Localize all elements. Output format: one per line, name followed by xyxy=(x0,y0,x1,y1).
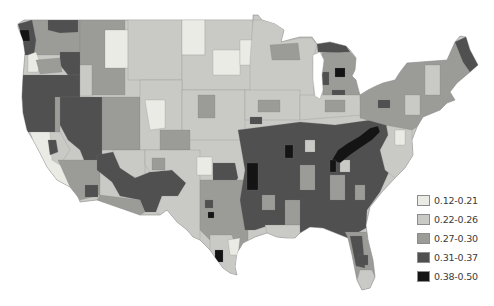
legend-item-class-3: 0.31-0.37 xyxy=(417,248,487,267)
map-region xyxy=(208,212,214,218)
map-region xyxy=(335,68,345,77)
map-region xyxy=(128,20,182,80)
map-region xyxy=(265,225,300,238)
map-region xyxy=(357,270,375,290)
map-region xyxy=(405,95,420,115)
map-region xyxy=(330,160,336,172)
map-region xyxy=(160,130,190,150)
legend-label: 0.22-0.26 xyxy=(434,214,478,225)
map-region xyxy=(325,100,345,112)
legend-swatch xyxy=(417,252,430,263)
map-region xyxy=(285,145,293,158)
map-region xyxy=(378,100,390,108)
map-region xyxy=(36,58,62,74)
map-region xyxy=(205,200,213,208)
map-region xyxy=(270,43,300,60)
map-region xyxy=(355,185,365,200)
map-region xyxy=(198,95,215,118)
map-region xyxy=(285,200,300,225)
map-region xyxy=(300,165,315,190)
map-regions xyxy=(18,20,478,290)
legend-item-class-2: 0.27-0.30 xyxy=(417,229,487,248)
map-region xyxy=(182,20,205,55)
legend-item-class-1: 0.22-0.26 xyxy=(417,210,487,229)
legend-swatch xyxy=(417,233,430,244)
legend-item-class-4: 0.38-0.50 xyxy=(417,267,487,286)
map-region xyxy=(152,158,165,170)
legend-swatch xyxy=(417,214,430,225)
map-region xyxy=(425,65,440,95)
map-region xyxy=(228,238,240,255)
map-region xyxy=(395,130,405,145)
legend-item-class-0: 0.12-0.21 xyxy=(417,191,487,210)
map-region xyxy=(80,65,92,96)
legend-label: 0.31-0.37 xyxy=(434,252,478,263)
map-region xyxy=(358,255,368,265)
map-region xyxy=(197,157,212,175)
map-region xyxy=(322,72,329,85)
map-region xyxy=(247,163,258,190)
map-region xyxy=(305,140,315,152)
map-region xyxy=(317,42,350,53)
map-region xyxy=(85,185,98,197)
map-legend: 0.12-0.21 0.22-0.26 0.27-0.30 0.31-0.37 … xyxy=(417,191,487,286)
legend-swatch xyxy=(417,271,430,282)
map-region xyxy=(330,175,345,200)
legend-label: 0.12-0.21 xyxy=(434,195,478,206)
map-region xyxy=(250,117,262,124)
map-region xyxy=(213,50,240,75)
map-region xyxy=(105,30,128,68)
legend-label: 0.27-0.30 xyxy=(434,233,478,244)
map-region xyxy=(20,30,30,41)
map-region xyxy=(258,100,280,112)
map-region xyxy=(102,97,140,150)
map-region xyxy=(262,195,275,210)
map-region xyxy=(48,20,78,33)
map-region xyxy=(215,250,223,262)
legend-label: 0.38-0.50 xyxy=(434,271,478,282)
legend-swatch xyxy=(417,195,430,206)
